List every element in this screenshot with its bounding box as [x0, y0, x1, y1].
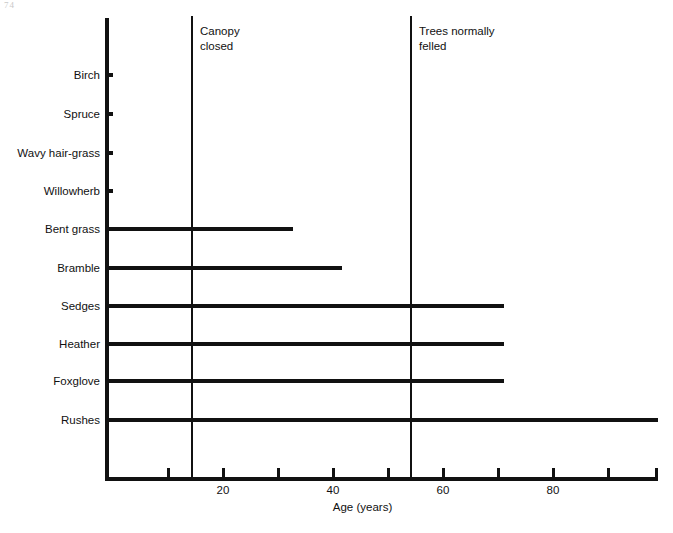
x-tick-60: [442, 468, 445, 477]
y-axis-label-spruce: Spruce: [0, 108, 100, 120]
x-tick-80: [552, 468, 555, 477]
category-label: Wavy hair-grass: [4, 147, 100, 159]
y-axis-label-birch: Birch: [0, 69, 100, 81]
y-axis-label-willowherb: Willowherb: [0, 185, 100, 197]
reference-line-trees-felled: [410, 16, 412, 480]
bar-bent-grass: [106, 227, 293, 231]
y-axis-label-bent-grass: Bent grass: [0, 223, 100, 235]
bar-birch: [106, 73, 113, 77]
bar-rushes: [106, 418, 658, 422]
category-label: Heather: [4, 338, 100, 350]
page-number: 74: [4, 0, 15, 10]
x-tick-label-20: 20: [203, 484, 243, 496]
y-axis-label-foxglove: Foxglove: [0, 375, 100, 387]
bar-heather: [106, 342, 504, 346]
x-tick-label-60: 60: [423, 484, 463, 496]
x-tick-20: [222, 468, 225, 477]
reference-line-canopy-closed: [191, 16, 193, 478]
bar-wavy-hair-grass: [106, 151, 113, 155]
x-tick-label-40: 40: [313, 484, 353, 496]
x-tick-40: [332, 468, 335, 477]
category-label: Willowherb: [4, 185, 100, 197]
y-axis-line: [105, 18, 109, 480]
chart-canvas: 74 Birch Spruce Wavy hair-grass Willowhe…: [0, 0, 673, 533]
y-axis-label-wavy-hair-grass: Wavy hair-grass: [0, 147, 100, 159]
x-axis-title-text: Age (years): [333, 501, 392, 513]
bar-spruce: [106, 112, 113, 116]
y-axis-label-sedges: Sedges: [0, 300, 100, 312]
y-axis-label-rushes: Rushes: [0, 414, 100, 426]
bar-sedges: [106, 304, 504, 308]
x-tick-70: [497, 468, 500, 477]
x-tick-label-80: 80: [533, 484, 573, 496]
x-tick-10: [167, 468, 170, 477]
x-tick-50: [387, 468, 390, 477]
annotation-canopy-closed: Canopy closed: [200, 24, 240, 54]
x-axis-line: [105, 477, 658, 481]
category-label: Foxglove: [4, 375, 100, 387]
bar-bramble: [106, 266, 342, 270]
x-axis-title: Age (years): [0, 501, 673, 513]
category-label: Bramble: [4, 262, 100, 274]
x-tick-100: [655, 468, 658, 477]
x-tick-30: [277, 468, 280, 477]
category-label: Birch: [4, 69, 100, 81]
y-axis-label-heather: Heather: [0, 338, 100, 350]
category-label: Rushes: [4, 414, 100, 426]
x-tick-90: [607, 468, 610, 477]
y-axis-label-bramble: Bramble: [0, 262, 100, 274]
annotation-trees-felled: Trees normally felled: [419, 24, 495, 54]
bar-foxglove: [106, 379, 504, 383]
category-label: Spruce: [4, 108, 100, 120]
bar-willowherb: [106, 189, 113, 193]
category-label: Bent grass: [4, 223, 100, 235]
category-label: Sedges: [4, 300, 100, 312]
